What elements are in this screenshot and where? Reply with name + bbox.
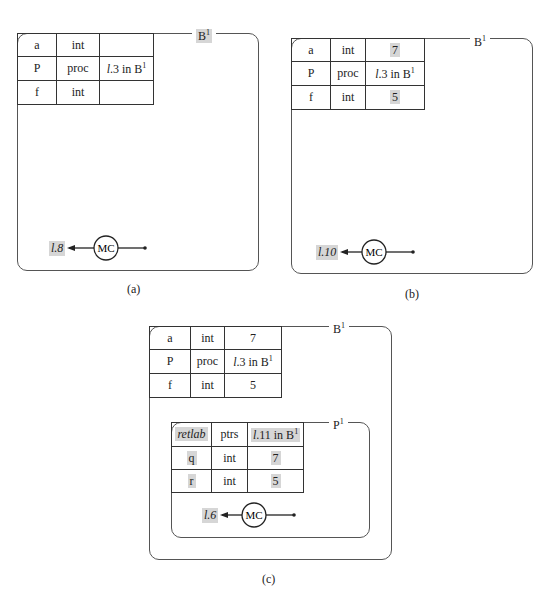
cell-name: r: [172, 470, 212, 493]
cell-name: P: [18, 57, 57, 81]
cell-name: a: [18, 34, 57, 57]
cell-name: P: [292, 62, 331, 86]
arrow-icon: MC: [47, 233, 157, 263]
cell-type: int: [57, 81, 100, 105]
cell-value: 7: [366, 39, 425, 62]
cell-name: retlab: [172, 423, 212, 447]
cell-name: q: [172, 447, 212, 470]
cell-value: 5: [248, 470, 304, 493]
frame-label: B1: [192, 27, 216, 42]
cell-value: l.3 in B1: [225, 350, 282, 374]
cell-type: int: [191, 374, 225, 398]
cell-type: int: [212, 470, 248, 493]
cell-value: 7: [225, 327, 282, 350]
caption: (c): [262, 572, 275, 587]
cell-value: 5: [366, 86, 425, 110]
cell-value: l.3 in B1: [100, 57, 154, 81]
mc-pointer: l.6 MC: [202, 500, 312, 530]
cell-value: 7: [248, 447, 304, 470]
svg-text:MC: MC: [365, 246, 382, 258]
cell-value: 5: [225, 374, 282, 398]
cell-type: int: [331, 39, 366, 62]
cell-name: a: [150, 327, 191, 350]
caption: (a): [127, 282, 140, 297]
arrow-icon: MC: [202, 500, 312, 530]
cell-value: l.3 in B1: [366, 62, 425, 86]
cell-type: ptrs: [212, 423, 248, 447]
cell-type: int: [191, 327, 225, 350]
cell-name: P: [150, 350, 191, 374]
cell-name: f: [292, 86, 331, 110]
svg-text:MC: MC: [245, 509, 262, 521]
mc-pointer: l.8 MC: [47, 233, 157, 263]
cell-type: proc: [57, 57, 100, 81]
mc-pointer: l.10 MC: [316, 237, 426, 267]
frame-label: B1: [329, 320, 349, 335]
frame-label: B1: [470, 33, 490, 48]
symbol-table: aint Pprocl.3 in B1 fint: [17, 33, 154, 105]
cell-type: int: [212, 447, 248, 470]
cell-name: a: [292, 39, 331, 62]
caption: (b): [405, 287, 419, 302]
cell-value: [100, 81, 154, 105]
svg-text:MC: MC: [97, 242, 114, 254]
cell-type: proc: [331, 62, 366, 86]
symbol-table: aint7 Pprocl.3 in B1 fint5: [291, 38, 425, 110]
cell-name: f: [150, 374, 191, 398]
activation-table: retlabptrsl.11 in B1 qint7 rint5: [171, 422, 304, 493]
cell-value: [100, 34, 154, 57]
cell-type: proc: [191, 350, 225, 374]
cell-value: l.11 in B1: [248, 423, 304, 447]
cell-name: f: [18, 81, 57, 105]
cell-type: int: [57, 34, 100, 57]
arrow-icon: MC: [316, 237, 426, 267]
symbol-table: aint7 Pprocl.3 in B1 fint5: [149, 326, 282, 398]
cell-type: int: [331, 86, 366, 110]
frame-label: P1: [329, 416, 348, 431]
